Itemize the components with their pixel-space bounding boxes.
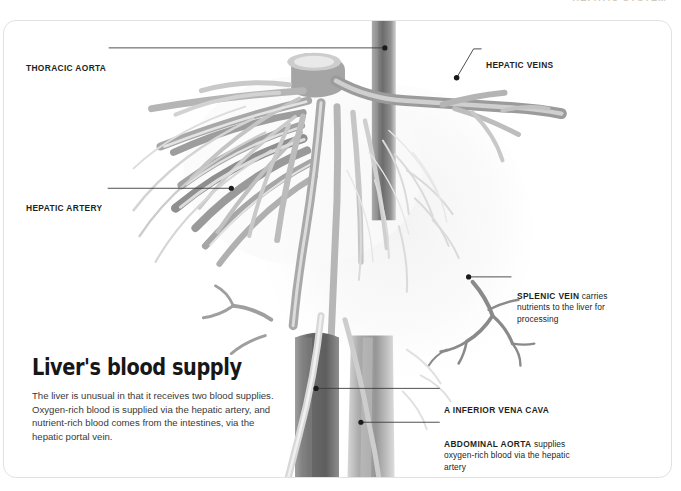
deck-title: Liver's blood supply [32,354,257,380]
callout-term-splenic-vein: SPLENIC VEIN [517,291,579,301]
figure-card: THORACIC AORTA HEPATIC ARTERY HEPATIC VE… [3,20,672,478]
callout-term-inferior-vena-cava: A INFERIOR VENA CAVA [444,405,549,415]
callout-term-hepatic-artery: HEPATIC ARTERY [26,203,103,213]
leader-dot-hepatic-veins [454,75,460,81]
callout-hepatic-veins: HEPATIC VEINS [486,60,554,71]
leader-dot-abdominal-aorta [358,420,363,425]
deck-body: The liver is unusual in that it receives… [32,389,287,443]
leader-dot-hepatic-artery [229,186,234,191]
leader-dot-inferior-vena-cava [313,386,318,391]
leader-dot-splenic-vein [466,274,471,279]
callout-term-hepatic-veins: HEPATIC VEINS [486,60,554,70]
callout-splenic-vein: SPLENIC VEIN carries nutrients to the li… [517,291,629,325]
callout-hepatic-artery: HEPATIC ARTERY [26,203,103,214]
callout-inferior-vena-cava: A INFERIOR VENA CAVA [444,405,549,416]
callout-thoracic-aorta: THORACIC AORTA [26,63,106,74]
deck-block: Liver's blood supply The liver is unusua… [32,354,300,443]
callout-abdominal-aorta: ABDOMINAL AORTA supplies oxygen-rich blo… [444,439,594,473]
callout-term-abdominal-aorta: ABDOMINAL AORTA [444,439,531,449]
running-head: HEPATIC SYSTEM [573,0,667,3]
callout-term-thoracic-aorta: THORACIC AORTA [26,63,106,73]
leader-dot-thoracic-aorta [382,45,387,50]
